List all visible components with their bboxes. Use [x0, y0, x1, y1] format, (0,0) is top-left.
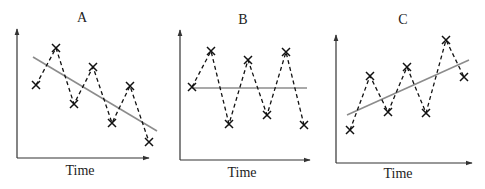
panel-title-c: C: [398, 12, 407, 27]
x-marker-icon: [403, 63, 411, 71]
x-marker-icon: [422, 109, 430, 117]
x-marker-icon: [126, 82, 134, 90]
data-markers: [346, 36, 468, 134]
x-marker-icon: [384, 108, 392, 116]
x-marker-icon: [188, 83, 196, 91]
x-marker-icon: [225, 120, 233, 128]
x-marker-icon: [70, 100, 78, 108]
x-marker-icon: [300, 121, 308, 129]
panel-title-a: A: [77, 10, 88, 25]
x-axis-label-a: Time: [65, 163, 94, 178]
x-axis-label-c: Time: [383, 166, 412, 181]
x-marker-icon: [346, 126, 354, 134]
x-marker-icon: [244, 56, 252, 64]
x-marker-icon: [89, 63, 97, 71]
x-marker-icon: [263, 111, 271, 119]
x-marker-icon: [145, 138, 153, 146]
three-panel-trend-diagram: A Time B Time C Time: [0, 0, 485, 189]
panel-c: C Time: [336, 12, 472, 181]
x-marker-icon: [32, 81, 40, 89]
data-line-dashed: [350, 40, 464, 130]
x-marker-icon: [460, 73, 468, 81]
x-axis-label-b: Time: [227, 165, 256, 180]
data-line-dashed: [36, 48, 149, 142]
panel-b: B Time: [180, 12, 310, 180]
x-marker-icon: [442, 36, 450, 44]
x-marker-icon: [207, 47, 215, 55]
x-marker-icon: [282, 48, 290, 56]
x-marker-icon: [366, 72, 374, 80]
panel-a: A Time: [17, 10, 157, 178]
x-marker-icon: [108, 119, 116, 127]
panel-title-b: B: [238, 12, 247, 27]
x-marker-icon: [52, 44, 60, 52]
